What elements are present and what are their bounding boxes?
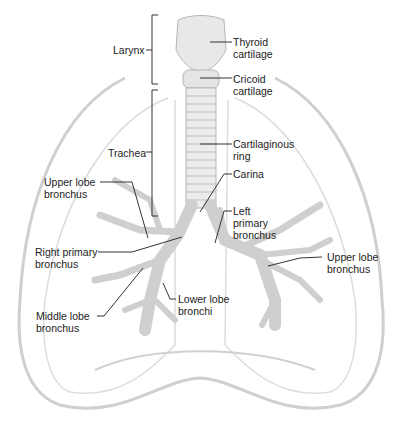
label-middle-lobe-bronchus: Middle lobebronchus [36,310,90,334]
thyroid-cartilage [176,16,226,73]
label-cricoid-cartilage: Cricoidcartilage [233,73,273,97]
label-carina: Carina [233,168,264,180]
label-lower-lobe-bronchi: Lower lobebronchi [178,293,229,317]
cricoid-cartilage [183,70,219,88]
label-cartilaginous-ring: Cartilaginousring [233,138,294,162]
label-upper-lobe-bronchus-right: Upper lobebronchus [44,176,95,200]
label-larynx: Larynx [113,44,145,56]
trachea-shape [186,88,216,208]
label-left-primary-bronchus: Leftprimarybronchus [233,205,276,241]
lungs-diagram [0,0,402,440]
label-right-primary-bronchus: Right primarybronchus [35,246,97,270]
label-trachea: Trachea [108,147,146,159]
label-thyroid-cartilage: Thyroidcartilage [233,36,273,60]
label-upper-lobe-bronchus-left: Upper lobebronchus [327,251,378,275]
